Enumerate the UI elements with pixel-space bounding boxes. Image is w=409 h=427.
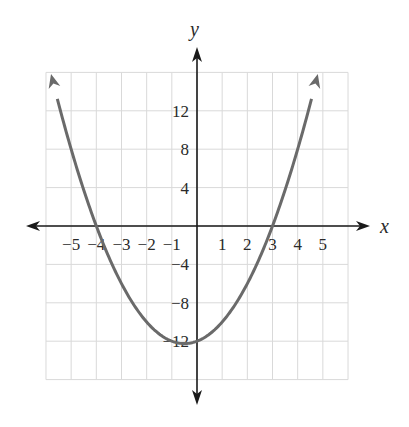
x-tick-label: −3 bbox=[112, 235, 130, 254]
x-tick-label: −5 bbox=[62, 235, 80, 254]
x-tick-label: 1 bbox=[218, 235, 227, 254]
y-axis-label: y bbox=[188, 18, 199, 41]
x-tick-label: −1 bbox=[163, 235, 181, 254]
x-axis-label: x bbox=[379, 215, 389, 237]
x-tick-label: −2 bbox=[138, 235, 156, 254]
x-tick-label: 4 bbox=[293, 235, 302, 254]
curve-arrow-icon bbox=[49, 74, 61, 89]
x-tick-label: 5 bbox=[319, 235, 328, 254]
y-tick-label: 4 bbox=[181, 179, 190, 198]
axes bbox=[26, 47, 370, 405]
y-tick-label: 12 bbox=[172, 102, 189, 121]
y-tick-label: −4 bbox=[171, 255, 190, 274]
y-tick-label: −8 bbox=[171, 294, 189, 313]
parabola-chart: −5−4−3−2−1123451284−4−8−12 x y bbox=[0, 0, 409, 427]
x-tick-label: 2 bbox=[243, 235, 252, 254]
curve-arrow-icon bbox=[309, 74, 321, 89]
y-tick-label: 8 bbox=[181, 140, 190, 159]
